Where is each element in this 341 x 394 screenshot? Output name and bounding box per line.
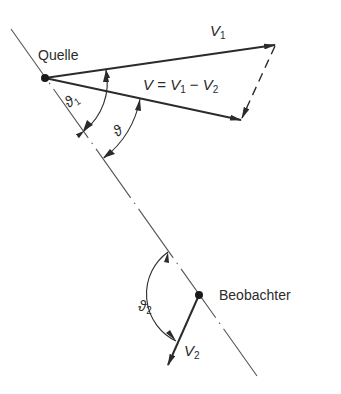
v2-label-main: V — [184, 342, 194, 359]
arrowhead-theta1-bottom — [83, 120, 93, 131]
eq-v2-sub: 2 — [213, 84, 219, 95]
v1-label-sub: 1 — [220, 30, 226, 41]
v2-label-sub: 2 — [194, 350, 200, 361]
axis-line — [11, 29, 257, 376]
angle-arc-theta — [104, 99, 140, 158]
beobachter-label: Beobachter — [219, 288, 291, 302]
angle-arc-theta2 — [146, 252, 176, 341]
v1-label: V1 — [210, 23, 226, 41]
vector-v1 — [45, 45, 275, 78]
v2-label: V2 — [184, 343, 200, 361]
theta2-label: ϑ2 — [138, 298, 152, 316]
eq-v2: V — [203, 76, 213, 93]
eq-minus: − — [186, 76, 203, 93]
v-equation-label: V = V1 − V2 — [143, 77, 218, 95]
beobachter-point — [195, 291, 203, 299]
quelle-label: Quelle — [38, 48, 78, 62]
eq-equals: = — [153, 76, 170, 93]
quelle-point — [41, 74, 49, 82]
theta2-label-main: ϑ — [138, 297, 146, 314]
arrowhead-theta-top — [135, 99, 141, 111]
eq-v1: V — [170, 76, 180, 93]
doppler-vector-diagram: Quelle V1 V = V1 − V2 ϑ1 ϑ Beobachter ϑ2… — [0, 0, 341, 394]
arrowhead-theta1-top — [103, 70, 109, 82]
eq-v: V — [143, 76, 153, 93]
vector-minus-v2 — [242, 46, 275, 118]
v1-label-main: V — [210, 22, 220, 39]
theta2-label-sub: 2 — [146, 305, 152, 316]
